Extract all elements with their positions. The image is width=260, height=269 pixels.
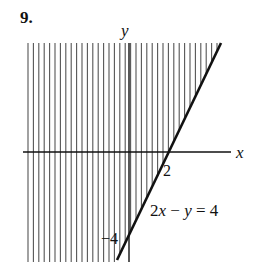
- inequality-graph: 9. y x 2 −4 2x − y = 4: [0, 0, 260, 269]
- problem-number: 9.: [20, 8, 33, 27]
- graph-figure: 9. y x 2 −4 2x − y = 4: [0, 0, 260, 269]
- x-intercept-label: 2: [163, 162, 171, 179]
- y-intercept-label: −4: [101, 230, 118, 247]
- x-axis-label: x: [235, 143, 244, 162]
- y-axis-label: y: [119, 21, 129, 40]
- line-equation: 2x − y = 4: [150, 201, 219, 220]
